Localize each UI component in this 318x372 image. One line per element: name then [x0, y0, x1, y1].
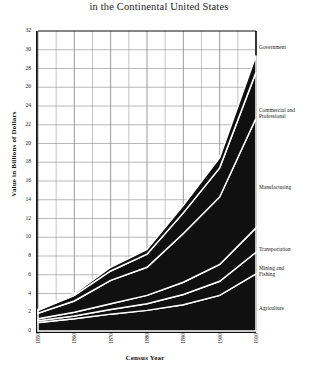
y-tick-30: 30	[26, 47, 31, 53]
y-tick-6: 6	[28, 272, 31, 278]
x-axis-title: Census Year	[36, 354, 254, 362]
y-tick-22: 22	[26, 122, 31, 128]
y-tick-26: 26	[26, 84, 31, 90]
y-tick-8: 8	[28, 253, 31, 259]
x-tick-1890: 1890	[181, 333, 187, 344]
x-axis-tick-labels: 1850186018701880189019001910	[36, 333, 254, 355]
y-axis-tick-labels: 02468101214161820222426283032	[0, 31, 34, 331]
y-tick-2: 2	[28, 309, 31, 315]
x-tick-1850: 1850	[36, 333, 42, 344]
y-tick-16: 16	[26, 178, 31, 184]
y-tick-18: 18	[26, 159, 31, 165]
series-label-commercial-and-professional: Commercial and Professional	[259, 107, 295, 119]
series-label-transportation: Transportation	[259, 246, 291, 252]
plot-area	[36, 31, 256, 333]
series-label-agriculture: Agriculture	[259, 305, 284, 311]
y-tick-12: 12	[26, 216, 31, 222]
y-tick-28: 28	[26, 66, 31, 72]
x-tick-1900: 1900	[218, 333, 224, 344]
plot-inner	[38, 31, 256, 331]
stacked-area-series	[38, 31, 256, 331]
y-tick-4: 4	[28, 291, 31, 297]
y-tick-0: 0	[28, 328, 31, 334]
y-tick-10: 10	[26, 234, 31, 240]
series-label-government: Government	[259, 44, 286, 50]
x-tick-1860: 1860	[72, 333, 78, 344]
x-tick-1870: 1870	[109, 333, 115, 344]
series-label-mining-and-fishing: Mining and Fishing	[259, 265, 284, 277]
series-label-manufacturing: Manufacturing	[259, 184, 291, 190]
x-tick-1910: 1910	[254, 333, 260, 344]
y-tick-20: 20	[26, 141, 31, 147]
y-tick-14: 14	[26, 197, 31, 203]
chart-title: in the Continental United States	[0, 1, 318, 12]
y-tick-24: 24	[26, 103, 31, 109]
y-tick-32: 32	[26, 28, 31, 34]
x-tick-1880: 1880	[145, 333, 151, 344]
